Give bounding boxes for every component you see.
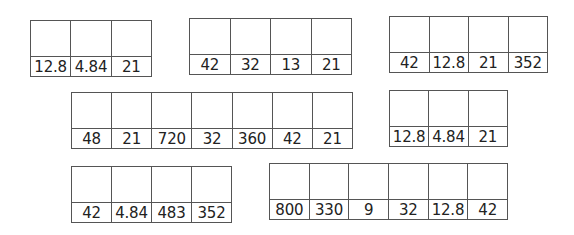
value-cell: 42 — [72, 203, 112, 223]
answer-cell[interactable] — [428, 164, 468, 200]
answer-grid-3: 42 12.8 21 352 — [389, 16, 548, 73]
answer-grid-2: 42 32 13 21 — [189, 18, 352, 75]
answer-cell[interactable] — [270, 164, 310, 200]
value-cell: 42 — [272, 129, 312, 149]
answer-cell[interactable] — [390, 17, 430, 53]
value-cell: 42 — [390, 53, 430, 73]
answer-cell[interactable] — [232, 93, 272, 129]
value-cell: 720 — [152, 129, 192, 149]
value-cell: 4.84 — [429, 127, 468, 147]
value-cell: 21 — [312, 129, 352, 149]
answer-grid-1: 12.8 4.84 21 — [30, 20, 152, 77]
answer-cell[interactable] — [390, 91, 429, 127]
value-cell: 352 — [508, 53, 548, 73]
value-cell: 12.8 — [31, 57, 71, 77]
answer-grid-7: 800 330 9 32 12.8 42 — [269, 163, 508, 220]
answer-cell[interactable] — [508, 17, 548, 53]
answer-grid-5: 12.8 4.84 21 — [389, 90, 508, 147]
answer-cell[interactable] — [72, 93, 112, 129]
answer-cell[interactable] — [72, 167, 112, 203]
value-cell: 32 — [388, 200, 428, 220]
value-cell: 4.84 — [71, 57, 111, 77]
answer-cell[interactable] — [31, 21, 71, 57]
value-cell: 12.8 — [390, 127, 429, 147]
value-cell: 800 — [270, 200, 310, 220]
answer-cell[interactable] — [429, 17, 469, 53]
value-cell: 21 — [468, 127, 507, 147]
answer-cell[interactable] — [152, 93, 192, 129]
value-cell: 360 — [232, 129, 272, 149]
answer-cell[interactable] — [272, 93, 312, 129]
value-cell: 483 — [152, 203, 192, 223]
value-cell: 352 — [192, 203, 232, 223]
value-cell: 12.8 — [428, 200, 468, 220]
value-cell: 21 — [469, 53, 509, 73]
answer-cell[interactable] — [152, 167, 192, 203]
value-cell: 4.84 — [112, 203, 152, 223]
answer-cell[interactable] — [112, 167, 152, 203]
answer-cell[interactable] — [312, 93, 352, 129]
value-cell: 12.8 — [429, 53, 469, 73]
answer-cell[interactable] — [468, 164, 508, 200]
answer-cell[interactable] — [349, 164, 389, 200]
value-cell: 21 — [112, 129, 152, 149]
answer-cell[interactable] — [112, 93, 152, 129]
answer-cell[interactable] — [192, 93, 232, 129]
value-cell: 48 — [72, 129, 112, 149]
answer-cell[interactable] — [71, 21, 111, 57]
value-cell: 13 — [271, 55, 312, 75]
answer-cell[interactable] — [309, 164, 349, 200]
answer-cell[interactable] — [468, 91, 507, 127]
value-cell: 9 — [349, 200, 389, 220]
answer-grid-6: 42 4.84 483 352 — [71, 166, 232, 223]
answer-cell[interactable] — [111, 21, 151, 57]
answer-cell[interactable] — [192, 167, 232, 203]
answer-cell[interactable] — [388, 164, 428, 200]
answer-cell[interactable] — [190, 19, 231, 55]
answer-cell[interactable] — [271, 19, 312, 55]
value-cell: 32 — [230, 55, 271, 75]
value-cell: 330 — [309, 200, 349, 220]
value-cell: 42 — [190, 55, 231, 75]
value-cell: 21 — [111, 57, 151, 77]
answer-cell[interactable] — [230, 19, 271, 55]
value-cell: 21 — [311, 55, 352, 75]
value-cell: 42 — [468, 200, 508, 220]
answer-grid-4: 48 21 720 32 360 42 21 — [71, 92, 353, 149]
answer-cell[interactable] — [469, 17, 509, 53]
answer-cell[interactable] — [311, 19, 352, 55]
value-cell: 32 — [192, 129, 232, 149]
answer-cell[interactable] — [429, 91, 468, 127]
